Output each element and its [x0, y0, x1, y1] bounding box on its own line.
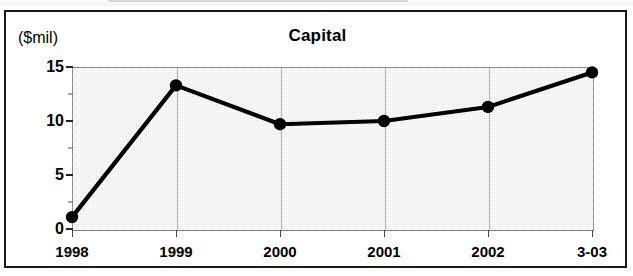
x-axis-tick-label: 2002 [443, 243, 533, 260]
plot-category-separator [489, 68, 490, 230]
x-axis-tick-mark [488, 230, 489, 237]
x-axis-tick-label: 2000 [235, 243, 325, 260]
y-axis-tick-mark [66, 66, 73, 68]
x-axis-tick-label: 1999 [131, 243, 221, 260]
y-axis-tick-label: 0 [18, 220, 64, 238]
chart-title: Capital [6, 26, 629, 46]
x-axis-tick-label: 1998 [27, 243, 117, 260]
y-axis-tick-label: 15 [18, 58, 64, 76]
y-axis-tick-mark [66, 120, 73, 122]
x-axis-tick-mark [592, 230, 593, 237]
plot-category-separator [385, 68, 386, 230]
y-axis-tick-label: 10 [18, 112, 64, 130]
plot-category-separator [281, 68, 282, 230]
y-axis-minor-tick-mark [68, 148, 73, 149]
scan-artifact-bottom [0, 271, 633, 276]
x-axis-tick-label: 2001 [339, 243, 429, 260]
y-axis-tick-label: 5 [18, 166, 64, 184]
y-axis-minor-tick-mark [68, 202, 73, 203]
plot-area [72, 67, 594, 231]
x-axis-tick-label: 3-03 [547, 243, 633, 260]
chart-frame: Capital ($mil) 0510151998199920002001200… [4, 10, 627, 268]
scan-artifact-top [0, 0, 633, 7]
x-axis-tick-mark [176, 230, 177, 237]
y-axis-unit-label: ($mil) [18, 29, 58, 47]
chart-figure: Capital ($mil) 0510151998199920002001200… [0, 0, 633, 276]
y-axis-tick-mark [66, 174, 73, 176]
plot-category-separator [177, 68, 178, 230]
x-axis-tick-mark [384, 230, 385, 237]
x-axis-tick-mark [72, 230, 73, 237]
y-axis-minor-tick-mark [68, 94, 73, 95]
x-axis-tick-mark [280, 230, 281, 237]
